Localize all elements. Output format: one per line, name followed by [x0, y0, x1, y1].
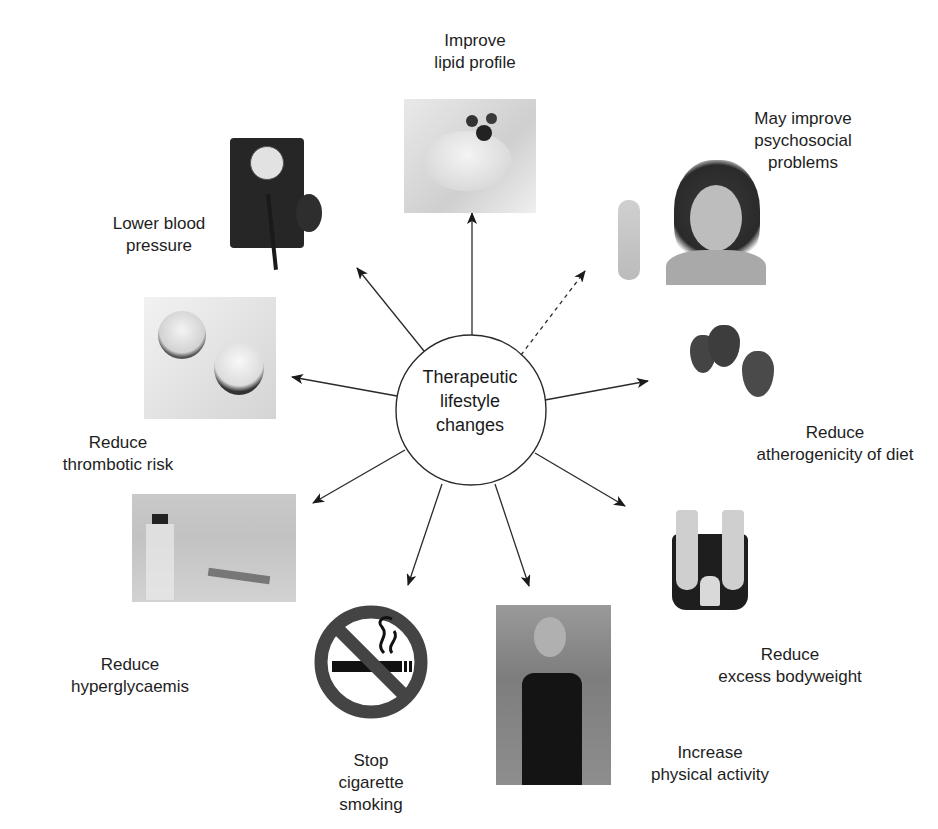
- label-atherogenicity: Reduce atherogenicity of diet: [740, 422, 930, 466]
- scale-image: [666, 510, 752, 610]
- label-physical-activity: Increase physical activity: [640, 742, 780, 786]
- label-thrombotic: Reduce thrombotic risk: [48, 432, 188, 476]
- sphygmomanometer-image: [226, 134, 330, 274]
- arrow-blood-pressure: [357, 268, 424, 351]
- label-bodyweight: Reduce excess bodyweight: [705, 644, 875, 688]
- tablets-image: [144, 297, 276, 419]
- arrow-psychosocial: [521, 271, 585, 355]
- dessert-image: [404, 99, 536, 213]
- strawberries-image: [690, 325, 780, 407]
- label-smoking: Stop cigarette smoking: [326, 750, 416, 816]
- no-smoking-icon: [312, 603, 430, 721]
- arrow-atherogenicity: [545, 381, 648, 400]
- arrow-hyperglycaemia: [313, 450, 405, 503]
- arrow-smoking: [408, 484, 442, 585]
- label-blood-pressure: Lower blood pressure: [94, 213, 224, 257]
- arrow-thrombotic: [292, 377, 397, 396]
- arrow-bodyweight: [535, 453, 625, 506]
- center-label: Therapeutic lifestyle changes: [405, 365, 535, 437]
- smiling-woman-image: [606, 155, 766, 285]
- jogging-woman-image: [496, 605, 611, 785]
- label-hyperglycaemia: Reduce hyperglycaemis: [60, 654, 200, 698]
- label-lipid: Improve lipid profile: [420, 30, 530, 74]
- arrow-physical-activity: [495, 484, 529, 586]
- insulin-image: [132, 494, 296, 602]
